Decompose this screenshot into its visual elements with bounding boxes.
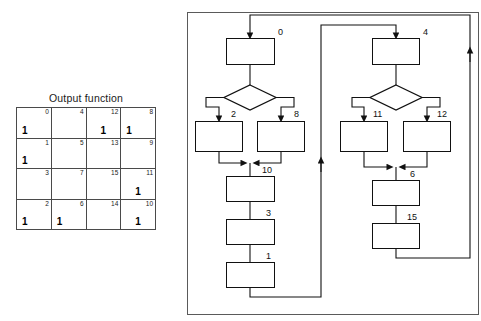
- screenshot-root: Output function 0 1 4 12 1 8 1 1 1: [0, 0, 481, 321]
- flow-node-2[interactable]: [195, 121, 243, 152]
- flow-node-4[interactable]: [372, 38, 420, 65]
- flow-node-8-label: 8: [294, 109, 299, 119]
- flow-node-15-label: 15: [407, 212, 417, 222]
- flow-node-3-label: 3: [266, 208, 271, 218]
- flow-node-10[interactable]: [226, 176, 275, 202]
- flow-node-6[interactable]: [372, 180, 420, 206]
- flow-node-12[interactable]: [403, 121, 451, 152]
- flow-node-2-label: 2: [231, 109, 236, 119]
- flow-node-15[interactable]: [372, 223, 420, 249]
- flow-node-6-label: 6: [410, 169, 415, 179]
- flow-node-3[interactable]: [226, 219, 275, 245]
- flow-node-0-label: 0: [278, 27, 283, 37]
- flow-node-10-label: 10: [262, 165, 272, 175]
- flow-node-4-label: 4: [423, 27, 428, 37]
- flow-node-1[interactable]: [226, 262, 275, 288]
- flow-node-12-label: 12: [437, 109, 447, 119]
- flow-node-11[interactable]: [340, 121, 388, 152]
- flow-node-0[interactable]: [226, 38, 275, 65]
- flow-node-8[interactable]: [257, 121, 305, 152]
- flow-node-11-label: 11: [373, 109, 382, 119]
- flow-node-1-label: 1: [266, 251, 271, 261]
